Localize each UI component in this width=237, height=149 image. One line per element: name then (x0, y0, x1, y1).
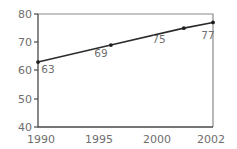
y-tick-label-60: 60 (18, 64, 32, 77)
x-tick-label-1995: 1995 (85, 133, 113, 146)
y-tick-label-70: 70 (18, 36, 32, 49)
data-label-1995: 69 (94, 47, 107, 59)
plot-axes (38, 14, 213, 127)
data-point-2002 (211, 21, 215, 25)
x-tick-label-2000: 2000 (143, 133, 171, 146)
x-axis-labels: 1990 1995 2000 2002 (27, 133, 225, 146)
y-axis-labels: 80 70 60 50 40 (18, 8, 32, 134)
x-tick-label-1990: 1990 (27, 133, 55, 146)
data-label-2000: 75 (152, 33, 165, 45)
plot-frame-border (38, 14, 213, 127)
series-line (38, 22, 213, 62)
y-tick-label-50: 50 (18, 93, 32, 106)
data-point-2000 (182, 26, 186, 30)
data-point-1990 (36, 60, 40, 64)
chart-canvas: 80 70 60 50 40 1990 1995 2000 2002 63 69… (0, 0, 237, 149)
data-label-1990: 63 (41, 63, 54, 75)
data-point-labels: 63 69 75 77 (41, 29, 214, 75)
data-point-1995 (109, 43, 113, 47)
line-chart: 80 70 60 50 40 1990 1995 2000 2002 63 69… (0, 0, 237, 149)
x-tick-label-2002: 2002 (197, 133, 225, 146)
data-label-2002: 77 (201, 29, 214, 41)
y-tick-label-80: 80 (18, 8, 32, 21)
